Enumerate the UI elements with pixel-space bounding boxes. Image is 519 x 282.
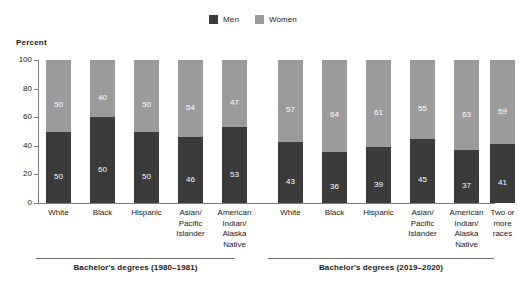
bar-segment-women[interactable]: 47 xyxy=(222,60,247,127)
y-axis-title: Percent xyxy=(16,38,47,47)
bar-value-label: 59 xyxy=(498,107,507,116)
bar-segment-women[interactable]: 55 xyxy=(410,60,435,139)
bar-value-label: 40 xyxy=(98,93,107,102)
bar-segment-men[interactable]: 36 xyxy=(322,152,347,203)
legend-item-men: Men xyxy=(209,15,239,24)
bar-value-label: 37 xyxy=(462,181,471,190)
bar-column[interactable]: 5050 xyxy=(134,60,159,203)
bar-column[interactable]: 5050 xyxy=(46,60,71,203)
y-axis-line xyxy=(38,60,39,203)
bar-segment-women[interactable]: 50 xyxy=(46,60,71,132)
bar-segment-men[interactable]: 60 xyxy=(90,117,115,203)
bar-segment-men[interactable]: 46 xyxy=(178,137,203,203)
bar-segment-men[interactable]: 41 xyxy=(490,144,515,203)
x-category-label: American Indian/ Alaska Native xyxy=(208,208,262,250)
plot-area: 0204060801005050406050505446475357436436… xyxy=(38,60,494,203)
bar-value-label: 39 xyxy=(374,180,383,189)
bar-value-label: 36 xyxy=(330,182,339,191)
bar-value-label: 60 xyxy=(98,165,107,174)
bar-value-label: 50 xyxy=(142,172,151,181)
bar-value-label: 43 xyxy=(286,177,295,186)
bar-value-label: 64 xyxy=(330,110,339,119)
bar-segment-men[interactable]: 53 xyxy=(222,127,247,203)
tick-mark xyxy=(34,117,38,118)
bar-value-label: 55 xyxy=(418,104,427,113)
y-tick-label: 0 xyxy=(28,198,32,207)
bar-value-label: 50 xyxy=(54,100,63,109)
bar-segment-women[interactable]: 50 xyxy=(134,60,159,132)
bar-value-label: 50 xyxy=(54,172,63,181)
legend-label: Women xyxy=(269,15,297,24)
bar-segment-women[interactable]: 59 xyxy=(490,60,515,144)
tick-mark xyxy=(34,89,38,90)
bar-segment-women[interactable]: 54 xyxy=(178,60,203,137)
tick-mark xyxy=(34,60,38,61)
legend-item-women: Women xyxy=(255,15,297,24)
bar-value-label: 41 xyxy=(498,178,507,187)
bar-segment-women[interactable]: 57 xyxy=(278,60,303,142)
x-axis-line xyxy=(38,203,495,204)
bar-segment-men[interactable]: 50 xyxy=(134,132,159,204)
bar-column[interactable]: 5941 xyxy=(490,60,515,203)
bar-value-label: 50 xyxy=(142,100,151,109)
bar-column[interactable]: 5545 xyxy=(410,60,435,203)
bar-column[interactable]: 6436 xyxy=(322,60,347,203)
y-tick-label: 80 xyxy=(23,84,32,93)
bar-value-label: 54 xyxy=(186,103,195,112)
y-tick-label: 100 xyxy=(19,55,32,64)
bar-value-label: 63 xyxy=(462,110,471,119)
bar-column[interactable]: 4753 xyxy=(222,60,247,203)
bar-value-label: 61 xyxy=(374,108,383,117)
bar-segment-men[interactable]: 50 xyxy=(46,132,71,204)
bar-value-label: 45 xyxy=(418,175,427,184)
bar-segment-women[interactable]: 61 xyxy=(366,60,391,147)
bar-value-label: 47 xyxy=(230,98,239,107)
bar-value-label: 46 xyxy=(186,175,195,184)
tick-mark xyxy=(34,203,38,204)
bar-column[interactable]: 6337 xyxy=(454,60,479,203)
bar-segment-women[interactable]: 64 xyxy=(322,60,347,152)
bar-segment-men[interactable]: 45 xyxy=(410,139,435,203)
x-category-label: Two or more races xyxy=(476,208,519,240)
group-bracket-rule xyxy=(36,258,235,259)
bar-column[interactable]: 5446 xyxy=(178,60,203,203)
bar-column[interactable]: 5743 xyxy=(278,60,303,203)
bar-column[interactable]: 4060 xyxy=(90,60,115,203)
bar-segment-men[interactable]: 39 xyxy=(366,147,391,203)
bar-value-label: 57 xyxy=(286,105,295,114)
group-caption: Bachelor's degrees (1980–1981) xyxy=(36,263,235,272)
y-tick-label: 20 xyxy=(23,169,32,178)
bar-segment-men[interactable]: 37 xyxy=(454,150,479,203)
tick-mark xyxy=(34,146,38,147)
bar-column[interactable]: 6139 xyxy=(366,60,391,203)
square-swatch-icon xyxy=(255,15,264,24)
bar-value-label: 53 xyxy=(230,170,239,179)
group-bracket-rule xyxy=(268,258,494,259)
chart-legend: MenWomen xyxy=(0,15,506,24)
tick-mark xyxy=(34,174,38,175)
bar-segment-women[interactable]: 63 xyxy=(454,60,479,150)
bar-segment-women[interactable]: 40 xyxy=(90,60,115,117)
bar-segment-men[interactable]: 43 xyxy=(278,142,303,203)
y-tick-label: 40 xyxy=(23,141,32,150)
y-tick-label: 60 xyxy=(23,112,32,121)
group-caption: Bachelor's degrees (2019–2020) xyxy=(268,263,494,272)
legend-label: Men xyxy=(223,15,239,24)
square-swatch-icon xyxy=(209,15,218,24)
